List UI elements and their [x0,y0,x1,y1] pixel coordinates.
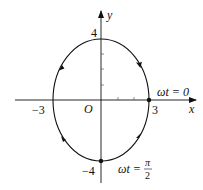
tick-label-x-neg: −3 [32,103,45,117]
x-axis-label: x [188,102,195,116]
tick-label-y-pos: 4 [91,26,97,40]
origin-label: O [84,102,93,116]
svg-text:π: π [145,157,151,168]
point-start-label: ωt = 0 [157,85,189,99]
svg-text:ωt =: ωt = [118,162,141,176]
point-quarter [99,159,103,163]
point-start [147,98,151,102]
tick-label-y-neg: −4 [82,164,95,178]
tick-label-x-pos: 3 [152,103,158,117]
axis-ticks [101,54,134,100]
ellipse-diagram: y x O 4 −4 3 −3 ωt = 0 ωt = π 2 [0,0,203,190]
point-quarter-label: ωt = π 2 [118,157,152,181]
svg-text:2: 2 [145,170,150,181]
y-axis-label: y [106,8,113,22]
